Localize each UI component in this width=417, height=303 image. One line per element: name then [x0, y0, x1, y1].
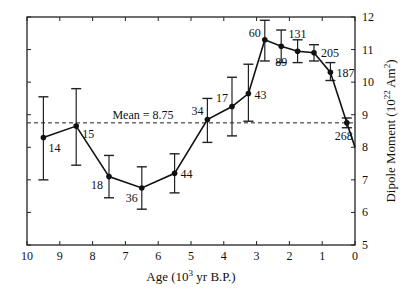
x-tick-label: 1 — [319, 249, 325, 263]
y-tick-label: 9 — [362, 108, 368, 122]
point-count-label: 36 — [126, 191, 138, 205]
point-count-label: 14 — [48, 141, 60, 155]
y-tick-label: 10 — [362, 75, 374, 89]
data-point — [262, 37, 268, 43]
y-tick-label: 11 — [362, 43, 374, 57]
data-point — [106, 174, 112, 180]
x-tick-label: 10 — [21, 249, 33, 263]
data-point — [205, 117, 211, 123]
data-point — [41, 135, 47, 141]
data-point — [311, 50, 317, 56]
point-count-label: 15 — [82, 127, 94, 141]
point-count-label: 17 — [216, 91, 228, 105]
x-tick-label: 8 — [90, 249, 96, 263]
point-count-label: 18 — [91, 178, 103, 192]
data-point — [229, 104, 235, 110]
mean-label: Mean = 8.75 — [112, 108, 173, 122]
point-count-label: 44 — [181, 167, 193, 181]
point-count-label: 43 — [254, 88, 266, 102]
point-count-label: 34 — [191, 104, 203, 118]
x-tick-label: 5 — [188, 249, 194, 263]
x-tick-label: 2 — [286, 249, 292, 263]
point-count-label: 89 — [275, 55, 287, 69]
x-tick-label: 7 — [122, 249, 128, 263]
x-tick-label: 4 — [221, 249, 227, 263]
data-point — [344, 120, 350, 126]
x-tick-label: 9 — [57, 249, 63, 263]
point-count-label: 131 — [289, 27, 307, 41]
data-point — [172, 171, 178, 177]
point-count-label: 268 — [335, 129, 353, 143]
point-count-label: 205 — [321, 46, 339, 60]
y-tick-label: 5 — [362, 238, 368, 252]
data-point — [139, 185, 145, 191]
y-tick-label: 7 — [362, 173, 368, 187]
x-tick-label: 6 — [155, 249, 161, 263]
y-tick-label: 6 — [362, 205, 368, 219]
point-count-label: 60 — [249, 26, 261, 40]
x-axis-label: Age (103 yr B.P.) — [146, 268, 235, 284]
x-tick-label: 3 — [254, 249, 260, 263]
y-axis-label: Dipole Moment (1022 Am2) — [382, 59, 398, 202]
dipole-moment-chart: 10987654321056789101112 Mean = 8.75 1415… — [0, 0, 417, 303]
data-point — [295, 48, 301, 54]
data-point — [278, 44, 284, 50]
point-count-label: 187 — [336, 66, 354, 80]
data-point — [73, 123, 79, 129]
x-tick-label: 0 — [352, 249, 358, 263]
data-point — [328, 70, 334, 76]
y-tick-label: 12 — [362, 10, 374, 24]
y-tick-label: 8 — [362, 140, 368, 154]
data-point — [246, 91, 252, 97]
